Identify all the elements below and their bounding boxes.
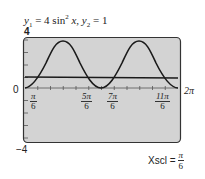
x-label-5pi-6: 5π6 bbox=[81, 92, 92, 111]
xscl-annotation: Xscl = π6 bbox=[148, 150, 184, 171]
series-y2-line bbox=[25, 77, 178, 78]
screen-frame bbox=[24, 38, 181, 143]
x-label-11pi-6: 11π6 bbox=[155, 92, 170, 111]
xscl-value: π6 bbox=[178, 150, 185, 171]
xscl-label: Xscl = bbox=[148, 155, 176, 166]
x-label-pi-6: π6 bbox=[30, 92, 37, 111]
x-label-7pi-6: 7π6 bbox=[107, 92, 118, 111]
